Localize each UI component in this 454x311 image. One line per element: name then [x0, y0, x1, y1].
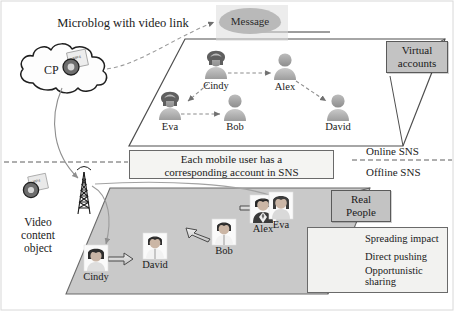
- node-label: Bob: [207, 245, 241, 256]
- legend-box: Spreading impact Direct pushing Opportun…: [307, 227, 448, 293]
- legend-label-spreading-impact: Spreading impact: [365, 233, 439, 244]
- real-people-line1: Real: [332, 193, 390, 206]
- node-cindy-real[interactable]: Cindy: [79, 271, 113, 282]
- offline-sns-label: Offline SNS: [366, 166, 421, 178]
- node-label: Alex: [268, 81, 302, 92]
- legend-label-line2: sharing: [365, 276, 445, 287]
- cell-tower-icon: [77, 167, 91, 215]
- sns-note-line1: Each mobile user has a: [130, 153, 333, 166]
- node-eva-virtual[interactable]: Eva: [153, 121, 187, 132]
- diagram-canvas: MP4 MP4: [0, 0, 454, 311]
- node-cindy-virtual[interactable]: Cindy: [199, 80, 233, 91]
- sns-note-box: Each mobile user has a corresponding acc…: [129, 150, 334, 179]
- node-bob-virtual[interactable]: Bob: [218, 121, 252, 132]
- video-content-object-icon: MP4: [23, 173, 48, 197]
- video-label-line1: Video: [6, 216, 70, 229]
- node-eva-real[interactable]: Eva: [264, 219, 298, 230]
- microblog-title: Microblog with video link: [48, 16, 198, 30]
- avatar-eva-real: [269, 192, 293, 219]
- sns-note-line2: corresponding account in SNS: [130, 166, 333, 179]
- node-label: Cindy: [199, 80, 233, 91]
- avatar-cindy-real: [84, 245, 108, 271]
- node-alex-virtual[interactable]: Alex: [268, 81, 302, 92]
- online-sns-label: Online SNS: [366, 145, 419, 157]
- video-label-line3: object: [6, 242, 70, 255]
- video-content-object-label: Video content object: [6, 216, 70, 255]
- node-label: Eva: [153, 121, 187, 132]
- node-label: Cindy: [79, 271, 113, 282]
- node-bob-real[interactable]: Bob: [207, 245, 241, 256]
- node-label: David: [138, 259, 172, 270]
- cp-label: CP: [44, 64, 59, 77]
- virtual-accounts-line2: accounts: [387, 57, 447, 70]
- avatar-david-real: [143, 233, 167, 259]
- node-label: David: [321, 121, 355, 132]
- real-people-badge[interactable]: Real People: [331, 190, 391, 222]
- video-label-line2: content: [6, 229, 70, 242]
- node-label: Eva: [264, 219, 298, 230]
- node-david-virtual[interactable]: David: [321, 121, 355, 132]
- legend-label-direct-pushing: Direct pushing: [365, 251, 427, 262]
- legend-label-opportunistic-sharing: Opportunistic sharing: [365, 265, 445, 287]
- avatar-bob-real: [212, 219, 236, 245]
- legend-label-line1: Opportunistic: [365, 265, 445, 276]
- virtual-accounts-badge[interactable]: Virtual accounts: [386, 41, 448, 73]
- virtual-accounts-line1: Virtual: [387, 44, 447, 57]
- real-people-line2: People: [332, 206, 390, 219]
- message-bubble[interactable]: Message: [219, 8, 281, 34]
- edge-cloud-to-tower: [55, 88, 78, 178]
- node-label: Bob: [218, 121, 252, 132]
- node-david-real[interactable]: David: [138, 259, 172, 270]
